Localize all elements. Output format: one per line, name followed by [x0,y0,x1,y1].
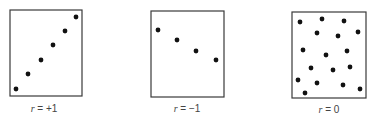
data-point [303,91,308,96]
data-point [14,87,19,92]
data-point [341,83,346,88]
data-point [315,31,320,36]
data-point [336,34,341,39]
scatter-plot-negative [151,11,224,97]
data-point [175,38,180,43]
data-point [26,72,31,77]
plot-label-positive: r = +1 [4,103,84,114]
data-point [156,28,161,33]
data-point [63,29,68,34]
data-point [301,48,306,53]
data-point [331,68,336,73]
data-point [296,78,301,83]
data-point [74,15,79,20]
plot-frame [10,10,82,96]
data-point [345,49,350,54]
plot-frame [151,11,224,97]
plot-label-zero: r = 0 [289,104,369,115]
data-point [320,17,325,22]
data-point [315,81,320,86]
data-point [324,53,329,58]
data-point [309,66,314,71]
scatter-plot-zero [292,12,366,98]
scatter-plot-positive [10,10,82,96]
data-point [214,58,219,63]
data-point [348,65,353,70]
plot-frame [292,12,366,98]
data-point [358,87,363,92]
data-point [298,20,303,25]
data-point [51,43,56,48]
data-point [194,49,199,54]
plot-label-negative: r = −1 [147,103,227,114]
data-point [356,30,361,35]
data-point [342,19,347,24]
data-point [39,58,44,63]
